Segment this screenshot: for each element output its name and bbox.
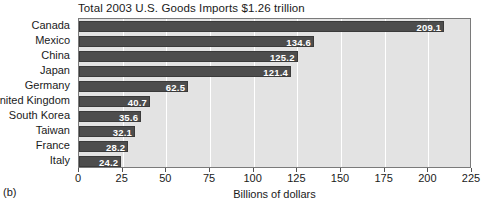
bar-row: 35.6: [79, 111, 470, 122]
bar-mexico: [79, 36, 314, 47]
bar-value-label: 209.1: [416, 21, 441, 32]
figure-caption: (b): [3, 186, 16, 198]
chart-title: Total 2003 U.S. Goods Imports $1.26 tril…: [78, 2, 305, 14]
y-axis-category-labels: CanadaMexicoChinaJapanGermanyUnited King…: [0, 18, 74, 168]
bar-value-label: 121.4: [263, 66, 288, 77]
x-tick-label: 150: [331, 172, 349, 184]
bar-row: 32.1: [79, 126, 470, 137]
x-tick-label: 175: [374, 172, 392, 184]
x-tick-label: 225: [462, 172, 480, 184]
y-axis-label-canada: Canada: [31, 20, 70, 31]
bar-value-label: 125.2: [270, 51, 295, 62]
y-axis-label-china: China: [41, 50, 70, 61]
y-axis-label-south-korea: South Korea: [9, 110, 70, 121]
bar-row: 62.5: [79, 81, 470, 92]
bar-canada: [79, 21, 444, 32]
bar-row: 40.7: [79, 96, 470, 107]
bar-value-label: 24.2: [99, 156, 118, 167]
y-axis-label-taiwan: Taiwan: [36, 125, 70, 136]
x-tick-label: 25: [116, 172, 128, 184]
figure-container: Total 2003 U.S. Goods Imports $1.26 tril…: [0, 0, 484, 205]
bar-row: 209.1: [79, 21, 470, 32]
plot-area: 209.1134.6125.2121.462.540.735.632.128.2…: [78, 18, 471, 168]
bars-layer: 209.1134.6125.2121.462.540.735.632.128.2…: [79, 19, 470, 167]
bar-row: 28.2: [79, 141, 470, 152]
x-tick-label: 125: [287, 172, 305, 184]
x-tick-label: 75: [203, 172, 215, 184]
bar-value-label: 62.5: [166, 81, 185, 92]
y-axis-label-mexico: Mexico: [35, 35, 70, 46]
x-tick-label: 200: [418, 172, 436, 184]
x-tick-label: 100: [243, 172, 261, 184]
x-tick-label: 0: [75, 172, 81, 184]
bar-row: 121.4: [79, 66, 470, 77]
bar-china: [79, 51, 298, 62]
bar-row: 125.2: [79, 51, 470, 62]
bar-value-label: 32.1: [113, 126, 132, 137]
y-axis-label-france: France: [36, 140, 70, 151]
y-axis-label-united-kingdom: United Kingdom: [0, 95, 70, 106]
bar-row: 134.6: [79, 36, 470, 47]
bar-value-label: 134.6: [286, 36, 311, 47]
bar-japan: [79, 66, 291, 77]
bar-row: 24.2: [79, 156, 470, 167]
y-axis-label-japan: Japan: [40, 65, 70, 76]
bar-value-label: 28.2: [106, 141, 125, 152]
x-tick-label: 50: [159, 172, 171, 184]
bar-value-label: 40.7: [128, 96, 147, 107]
x-axis-ticks: 0255075100125150175200225: [78, 168, 471, 176]
y-axis-label-germany: Germany: [25, 80, 70, 91]
x-axis-label: Billions of dollars: [78, 188, 471, 200]
y-axis-label-italy: Italy: [50, 155, 70, 166]
bar-value-label: 35.6: [119, 111, 138, 122]
